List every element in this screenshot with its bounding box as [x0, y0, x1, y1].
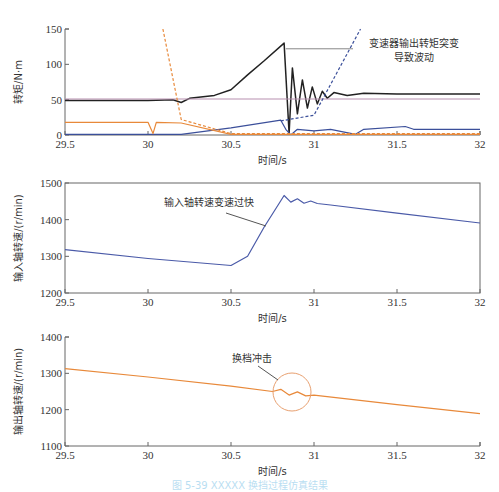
y-tick-label: 1300 [40, 367, 63, 379]
x-tick-label: 31 [309, 138, 320, 150]
x-tick-label: 30 [143, 296, 155, 308]
x-tick-label: 30 [143, 138, 155, 150]
annotation-torque-fluctuation: 变速器输出转矩突变 [369, 37, 459, 49]
y-tick-label: 1200 [40, 287, 63, 299]
y-tick-label: 0 [57, 129, 63, 141]
x-tick-label: 31 [309, 449, 320, 461]
x-tick-label: 31.5 [387, 296, 407, 308]
torque-chart: 29.53030.53131.532050100150时间/s转矩/N·m变速器… [12, 23, 486, 166]
x-tick-label: 32 [475, 138, 486, 150]
y-tick-label: 1400 [40, 331, 63, 343]
x-axis-label: 时间/s [258, 312, 287, 324]
y-axis-label: 输出轴转速/(r/min) [12, 348, 24, 436]
annotation-shift-shock: 换档冲击 [232, 352, 272, 364]
x-tick-label: 30.5 [221, 449, 241, 461]
output-speed-chart: 29.53030.53131.5321100120013001400时间/s输出… [12, 331, 486, 477]
y-axis-label: 输入轴转速/(r/min) [12, 194, 24, 282]
annotation-input-speed: 输入轴转速变速过快 [164, 196, 254, 208]
x-tick-label: 30 [143, 449, 155, 461]
y-axis-label: 转矩/N·m [12, 60, 24, 104]
figure: 29.53030.53131.532050100150时间/s转矩/N·m变速器… [0, 0, 499, 492]
x-axis-label: 时间/s [258, 465, 287, 477]
input-speed-chart: 29.53030.53131.5321200130014001500时间/s输入… [12, 177, 486, 324]
y-tick-label: 150 [46, 23, 63, 35]
y-tick-label: 50 [51, 94, 63, 106]
y-tick-label: 100 [46, 58, 63, 70]
output-shaft-speed-line [65, 369, 480, 414]
input-shaft-speed-line [65, 196, 480, 266]
x-tick-label: 31.5 [387, 449, 407, 461]
plot-frame [65, 183, 480, 293]
y-tick-label: 1200 [40, 404, 63, 416]
y-tick-label: 1400 [40, 214, 63, 226]
x-tick-label: 31 [309, 296, 320, 308]
x-tick-label: 32 [475, 449, 486, 461]
x-axis-label: 时间/s [258, 154, 287, 166]
y-tick-label: 1100 [40, 440, 62, 452]
figure-caption: 图 5-39 XXXXX 换挡过程仿真结果 [172, 479, 328, 491]
x-tick-label: 32 [475, 296, 486, 308]
shift-shock-highlight-circle [273, 373, 311, 411]
y-tick-label: 1300 [40, 250, 63, 262]
x-tick-label: 31.5 [387, 138, 407, 150]
x-tick-label: 30.5 [221, 138, 241, 150]
y-tick-label: 1500 [40, 177, 63, 189]
annotation-torque-fluctuation-line2: 导致波动 [394, 51, 434, 63]
clutch-torque-off-line [65, 122, 480, 134]
x-tick-label: 30.5 [221, 296, 241, 308]
